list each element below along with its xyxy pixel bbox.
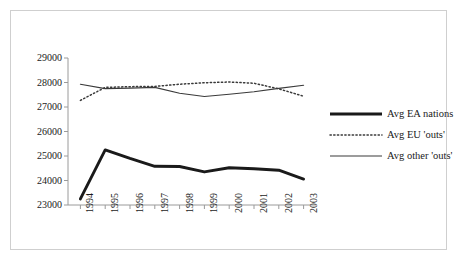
y-axis-tick-label: 24000 [18,176,62,186]
x-axis-tick-label: 1999 [208,193,219,213]
legend-item-label: Avg other 'outs' [387,150,452,162]
line-chart: 29000280002700026000250002400023000 1994… [0,0,460,261]
y-axis-tick-label: 27000 [18,102,62,112]
series-line [80,150,303,199]
series-line [80,84,303,96]
x-axis-tick-label: 2003 [308,193,319,213]
y-axis-tick-label: 25000 [18,151,62,161]
x-axis-tick-label: 1995 [109,193,120,213]
axis-group [64,58,316,209]
y-axis-tick-label: 23000 [18,200,62,210]
x-axis-tick-label: 2002 [283,193,294,213]
series-line [80,82,303,100]
x-axis-tick-label: 2000 [233,193,244,213]
x-axis-tick-label: 1997 [159,193,170,213]
legend-item-label: Avg EA nations [387,108,453,120]
x-axis-tick-label: 1994 [84,193,95,213]
y-axis-tick-label: 28000 [18,78,62,88]
legend-item-label: Avg EU 'outs' [387,129,445,141]
legend-marks [330,114,382,156]
y-axis-tick-label: 29000 [18,53,62,63]
x-axis-tick-label: 2001 [258,193,269,213]
series-group [80,82,303,199]
x-axis-tick-label: 1998 [184,193,195,213]
x-axis-tick-label: 1996 [134,193,145,213]
y-axis-ticks [64,58,68,205]
y-axis-tick-label: 26000 [18,127,62,137]
